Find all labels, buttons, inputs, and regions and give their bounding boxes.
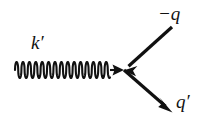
- outgoing-momentum-label: q′: [176, 92, 190, 111]
- incoming-momentum-label: −q: [158, 4, 180, 23]
- photon-momentum-label: k′: [31, 33, 44, 52]
- feynman-diagram-canvas: k′ −q q′: [0, 0, 205, 124]
